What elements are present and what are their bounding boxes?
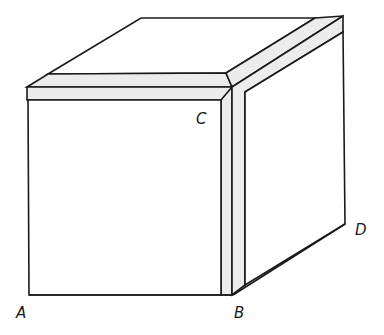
- front-face: [28, 100, 221, 295]
- label-c: C: [196, 110, 207, 128]
- front-top-band: [27, 87, 232, 100]
- front-vertical-band: [221, 87, 232, 295]
- label-d: D: [355, 221, 367, 239]
- label-a: A: [15, 304, 26, 322]
- label-b: B: [234, 304, 244, 322]
- top-front-band: [27, 73, 232, 87]
- cube-diagram: A B C D: [0, 0, 384, 335]
